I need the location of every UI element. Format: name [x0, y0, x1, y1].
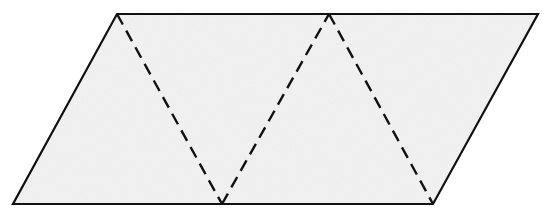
diagram-canvas: [0, 0, 547, 214]
parallelogram-diagram: [0, 0, 547, 214]
